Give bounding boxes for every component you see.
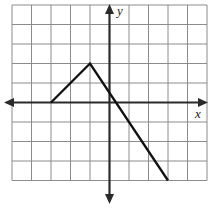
x-axis-arrow-left-icon bbox=[4, 98, 14, 107]
y-axis-arrow-down-icon bbox=[105, 194, 114, 204]
graph-canvas: y x bbox=[0, 0, 212, 211]
coordinate-grid-figure: y x bbox=[0, 0, 212, 211]
y-axis-label: y bbox=[115, 3, 123, 18]
axes-group bbox=[4, 4, 208, 204]
x-axis-label: x bbox=[194, 106, 201, 121]
